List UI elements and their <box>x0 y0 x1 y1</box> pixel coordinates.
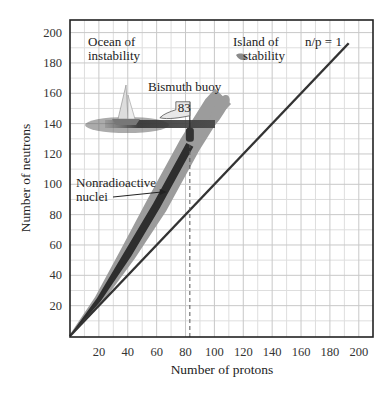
y-tick-label: 80 <box>50 208 63 222</box>
y-tick-label: 60 <box>50 238 63 252</box>
sailboat-jib-icon <box>128 95 135 119</box>
y-axis-label: Number of neutrons <box>18 124 33 233</box>
island-of-stability-label: Island of <box>233 34 280 49</box>
sailboat-hull-icon <box>112 119 140 125</box>
x-tick-label: 200 <box>349 345 368 359</box>
bismuth-buoy-label: Bismuth buoy <box>148 79 222 94</box>
x-tick-label: 180 <box>321 345 340 359</box>
np-equals-1-label: n/p = 1 <box>305 34 342 49</box>
x-tick-label: 20 <box>93 345 106 359</box>
buoy-label-83: 83 <box>178 100 191 115</box>
nonradioactive-nuclei-label: Nonradioactive <box>76 175 156 190</box>
y-tick-label: 160 <box>43 86 62 100</box>
x-tick-label: 80 <box>179 345 192 359</box>
y-tick-label: 180 <box>43 56 62 70</box>
nuclear-stability-chart: 83 20406080100120140160180200 2040608010… <box>0 0 391 398</box>
nonradioactive-nuclei-label-line2: nuclei <box>76 189 108 204</box>
y-tick-label: 40 <box>50 268 63 282</box>
x-tick-label: 160 <box>292 345 311 359</box>
buoy-body <box>186 128 194 142</box>
y-tick-label: 100 <box>43 177 62 191</box>
x-tick-label: 120 <box>234 345 253 359</box>
y-tick-label: 120 <box>43 147 62 161</box>
y-tick-label: 140 <box>43 117 62 131</box>
x-tick-label: 40 <box>122 345 135 359</box>
y-tick-label: 20 <box>50 299 63 313</box>
ocean-of-instability-label: Ocean of <box>88 34 136 49</box>
sailboat-icon <box>118 85 128 119</box>
ocean-of-instability-label-line2: instability <box>88 48 141 63</box>
y-tick-label: 200 <box>43 26 62 40</box>
x-axis-label: Number of protons <box>171 362 274 377</box>
x-tick-label: 60 <box>150 345 163 359</box>
x-tick-label: 100 <box>205 345 224 359</box>
x-tick-labels: 20406080100120140160180200 <box>93 345 369 359</box>
island-of-stability-label-line2: stability <box>243 48 285 63</box>
x-tick-label: 140 <box>263 345 282 359</box>
y-tick-labels: 20406080100120140160180200 <box>43 26 62 313</box>
